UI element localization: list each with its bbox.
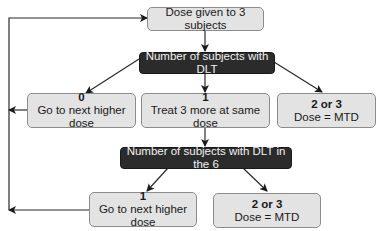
outcome-action: Dose = MTD — [294, 111, 359, 124]
outcome-action: Go to next higher dose — [28, 104, 135, 130]
outcome-count: 0 — [78, 91, 84, 104]
outcome-count: 2 or 3 — [311, 98, 342, 111]
start-label: Dose given to 3 subjects — [148, 6, 263, 32]
decision-label: Number of subjects with DLT — [140, 50, 274, 76]
outcome2-box-2-or-3: 2 or 3 Dose = MTD — [213, 193, 321, 228]
start-box: Dose given to 3 subjects — [147, 7, 264, 31]
outcome-count: 2 or 3 — [252, 198, 283, 211]
decision-box-dlt: Number of subjects with DLT — [139, 52, 275, 74]
outcome-count: 1 — [140, 190, 146, 203]
outcome-box-0: 0 Go to next higher dose — [27, 93, 136, 128]
outcome-count: 1 — [202, 91, 208, 104]
outcome2-box-1: 1 Go to next higher dose — [89, 192, 197, 227]
outcome-box-1: 1 Treat 3 more at same dose — [141, 93, 270, 128]
outcome-action: Treat 3 more at same dose — [142, 104, 269, 130]
outcome-action: Dose = MTD — [235, 211, 300, 224]
outcome-action: Go to next higher dose — [90, 203, 196, 229]
decision-box-dlt-in-6: Number of subjects with DLT in the 6 — [120, 147, 292, 169]
outcome-box-2-or-3: 2 or 3 Dose = MTD — [277, 93, 376, 128]
decision-label: Number of subjects with DLT in the 6 — [121, 145, 291, 171]
